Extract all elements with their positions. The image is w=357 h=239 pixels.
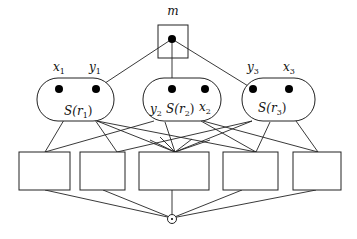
edge-r3-b3 <box>175 121 252 152</box>
group-label-r3: S(r3) <box>258 101 286 117</box>
diagram-canvas: m x1 y1 y2 x2 y3 x3 S(r1) S(r2) S <box>0 0 357 239</box>
edge-b4-sink <box>172 190 242 218</box>
label-y3: y3 <box>246 60 259 76</box>
box-sink-edges <box>45 190 316 218</box>
box-b3 <box>139 152 209 190</box>
point-x1 <box>55 85 63 93</box>
root-dot <box>168 35 176 43</box>
point-x3 <box>285 85 293 93</box>
group-label-r1: S(r1) <box>64 104 92 120</box>
point-y2 <box>168 85 176 93</box>
point-y1 <box>92 85 100 93</box>
edge-fan-4 <box>175 140 210 152</box>
edge-b2-sink <box>103 190 172 218</box>
box-b5 <box>293 152 341 190</box>
root-label: m <box>167 4 178 18</box>
edge-b1-sink <box>45 190 172 218</box>
edge-r2-b5 <box>203 121 318 152</box>
edge-r2-b4 <box>201 121 256 152</box>
edge-r3-b4 <box>256 122 270 152</box>
box-b2 <box>80 152 125 190</box>
box-b1 <box>19 152 70 190</box>
group-box-edges <box>45 120 318 152</box>
label-x3: x3 <box>283 60 295 76</box>
sink-dot-icon <box>171 218 173 220</box>
label-x1: x1 <box>53 60 65 76</box>
point-y3 <box>249 85 257 93</box>
edge-fan-3 <box>175 139 192 152</box>
group-label-r2: S(r2) <box>166 102 194 118</box>
edge-b5-sink <box>172 190 316 218</box>
box-b4 <box>223 152 278 190</box>
point-x2 <box>201 85 209 93</box>
label-y1: y1 <box>88 60 101 76</box>
